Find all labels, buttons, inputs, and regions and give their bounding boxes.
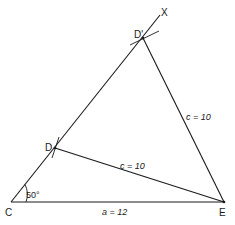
side-dprime-e: [143, 38, 224, 202]
point-d: [54, 147, 57, 150]
side-de: [55, 148, 224, 202]
label-c: C: [5, 207, 12, 218]
label-side-dprime-e: c = 10: [186, 112, 211, 122]
label-e: E: [219, 207, 226, 218]
point-e: [223, 201, 226, 204]
label-angle-c: 50°: [26, 190, 40, 200]
label-x: X: [161, 7, 168, 18]
label-d: D: [45, 142, 52, 153]
label-side-de: c = 10: [120, 161, 145, 171]
label-side-ce: a = 12: [102, 207, 127, 217]
label-dprime: D': [134, 29, 143, 40]
triangle-construction-diagram: X D' D C E 50° a = 12 c = 10 c = 10: [0, 0, 235, 225]
